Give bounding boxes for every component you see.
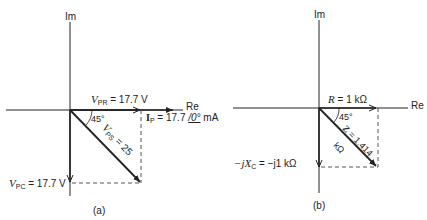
vpc-label: VPC = 17.7 V	[9, 178, 66, 190]
re-label-a: Re	[186, 102, 199, 112]
im-label-b: Im	[314, 10, 325, 20]
angle-label-b: 45°	[339, 113, 353, 122]
caption-b: (b)	[313, 201, 325, 211]
r-label: R = 1 kΩ	[328, 94, 367, 105]
angle-label-a: 45°	[91, 115, 105, 124]
im-label-a: Im	[65, 12, 76, 22]
caption-a: (a)	[93, 206, 105, 216]
re-label-b: Re	[411, 101, 424, 111]
panel-a	[6, 22, 183, 196]
ip-label: IP = 17.7 /0° mA	[146, 113, 218, 124]
xc-label: −jXC = −j1 kΩ	[234, 158, 297, 170]
vpr-label: VPR = 17.7 V	[91, 94, 148, 106]
